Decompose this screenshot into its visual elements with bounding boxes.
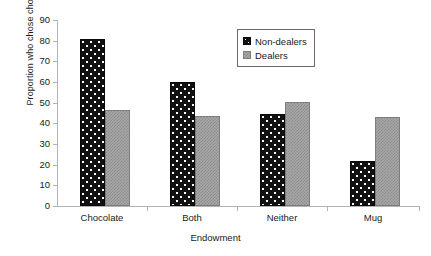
x-tick-label-chocolate: Chocolate <box>57 212 147 223</box>
x-tick-label-mug: Mug <box>327 212 419 223</box>
y-tick-label-10: 10 <box>39 179 50 190</box>
category-separator <box>419 206 420 211</box>
x-tick-label-neither: Neither <box>237 212 327 223</box>
bar-both-non-dealers <box>170 82 195 206</box>
x-tick-label-both: Both <box>147 212 237 223</box>
category-separator <box>327 206 328 211</box>
chart-legend: Non-dealers Dealers <box>237 29 315 67</box>
x-axis-line <box>57 206 420 207</box>
category-separator <box>237 206 238 211</box>
legend-label-non-dealers: Non-dealers <box>255 36 307 47</box>
y-tick-label-70: 70 <box>39 55 50 66</box>
bar-chart: Proportion who chose chocolate 90 80 70 … <box>0 0 431 256</box>
bar-group-chocolate <box>57 20 147 206</box>
y-tick-label-50: 50 <box>39 97 50 108</box>
bar-chocolate-non-dealers <box>80 39 105 206</box>
bar-group-both <box>147 20 237 206</box>
legend-item-non-dealers: Non-dealers <box>243 34 307 48</box>
black-dotted-swatch-icon <box>243 37 251 45</box>
y-tick-label-30: 30 <box>39 138 50 149</box>
bar-neither-non-dealers <box>260 114 285 206</box>
bar-group-mug <box>327 20 419 206</box>
y-axis-title: Proportion who chose chocolate <box>25 0 35 130</box>
bar-both-dealers <box>195 116 220 206</box>
bar-mug-dealers <box>375 117 400 206</box>
y-tick-label-0: 0 <box>45 200 50 211</box>
x-axis-title: Endowment <box>0 232 431 243</box>
bar-mug-non-dealers <box>350 161 375 207</box>
y-tick-label-60: 60 <box>39 76 50 87</box>
bar-neither-dealers <box>285 102 310 206</box>
gray-checkered-swatch-icon <box>243 51 251 59</box>
bar-chocolate-dealers <box>105 110 130 206</box>
legend-label-dealers: Dealers <box>255 50 288 61</box>
y-tick-label-80: 80 <box>39 35 50 46</box>
category-separator <box>147 206 148 211</box>
y-tick-label-90: 90 <box>39 14 50 25</box>
y-tick-label-40: 40 <box>39 117 50 128</box>
y-tick-label-20: 20 <box>39 159 50 170</box>
legend-item-dealers: Dealers <box>243 48 307 62</box>
